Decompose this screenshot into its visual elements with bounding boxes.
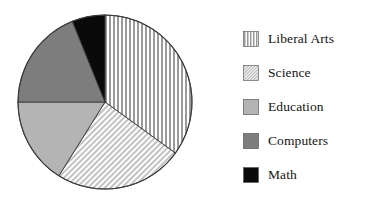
legend-label: Education xyxy=(268,100,324,114)
legend-label: Computers xyxy=(268,134,328,148)
vertical-stripes-swatch xyxy=(243,31,259,47)
legend-label: Science xyxy=(268,66,311,80)
pie-chart-svg xyxy=(17,14,193,190)
legend-label: Math xyxy=(268,168,297,182)
light-gray-swatch xyxy=(243,99,259,115)
diagonal-stripes-swatch xyxy=(243,65,259,81)
legend-item-computers[interactable]: Computers xyxy=(243,124,371,158)
legend-item-math[interactable]: Math xyxy=(243,158,371,192)
pie-chart-figure: Liberal ArtsScienceEducationComputersMat… xyxy=(0,0,372,205)
black-swatch xyxy=(243,167,259,183)
chart-legend: Liberal ArtsScienceEducationComputersMat… xyxy=(243,22,371,190)
legend-item-science[interactable]: Science xyxy=(243,56,371,90)
legend-item-education[interactable]: Education xyxy=(243,90,371,124)
dark-gray-swatch xyxy=(243,133,259,149)
legend-label: Liberal Arts xyxy=(268,32,334,46)
legend-item-liberal-arts[interactable]: Liberal Arts xyxy=(243,22,371,56)
pie-chart xyxy=(17,14,193,190)
